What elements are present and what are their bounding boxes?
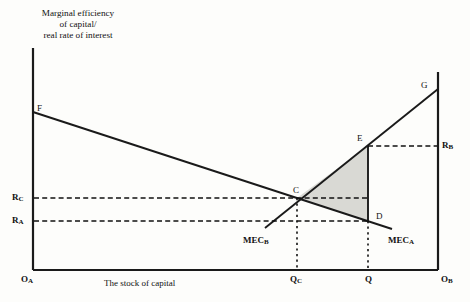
level-rc-subscript: C [19, 195, 24, 203]
x-tick-qc-letter: Q [290, 274, 297, 284]
economics-figure: Marginal efficiency of capital/ real rat… [0, 0, 470, 302]
origin-label-right: OB [441, 274, 453, 286]
origin-label-left: OA [21, 274, 33, 286]
x-tick-label-qc: QC [290, 274, 302, 286]
level-label-ra: RA [12, 215, 24, 227]
origin-left-letter: O [21, 274, 28, 284]
y-axis-title-line1: Marginal efficiency [22, 8, 134, 19]
level-rb-subscript: B [449, 143, 454, 151]
x-tick-label-q: Q [365, 274, 372, 285]
mec-b-subscript: B [264, 238, 269, 246]
curve-label-mec-a: MECA [388, 235, 414, 247]
chart-canvas [0, 0, 470, 302]
origin-right-letter: O [441, 274, 448, 284]
level-ra-subscript: A [19, 218, 24, 226]
point-label-g: G [421, 80, 428, 91]
y-axis-title-line2: of capital/ [22, 19, 134, 30]
curve-label-mec-b: MECB [243, 235, 269, 247]
point-label-e: E [357, 133, 363, 144]
point-label-c: C [293, 185, 299, 196]
x-tick-q-letter: Q [365, 274, 372, 284]
level-label-rc: RC [12, 192, 24, 204]
point-label-f: F [37, 103, 42, 114]
origin-left-subscript: A [28, 277, 33, 285]
x-axis-title: The stock of capital [104, 278, 175, 289]
mec-a-text: MEC [388, 235, 409, 245]
x-tick-qc-subscript: C [297, 277, 302, 285]
level-label-rb: RB [442, 140, 453, 152]
mec-b-text: MEC [243, 235, 264, 245]
origin-right-subscript: B [448, 277, 453, 285]
mec-a-subscript: A [409, 238, 414, 246]
y-axis-title: Marginal efficiency of capital/ real rat… [22, 8, 134, 42]
y-axis-title-line3: real rate of interest [22, 30, 134, 41]
point-label-d: D [376, 211, 383, 222]
